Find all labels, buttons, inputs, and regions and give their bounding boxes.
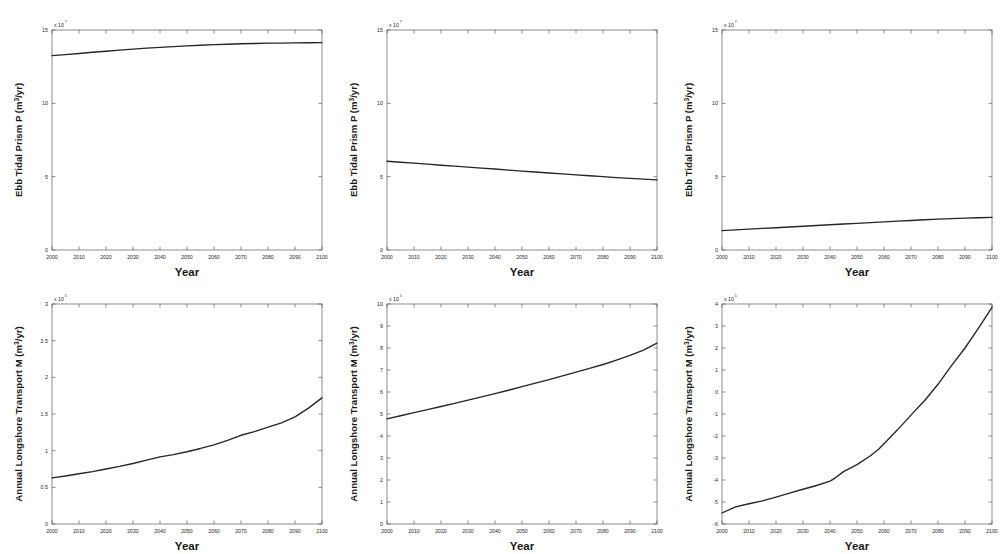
x-tick-label: 2100 [316, 528, 328, 534]
x-tick-label: 2100 [651, 528, 663, 534]
svg-text:x 10: x 10 [724, 296, 734, 302]
y-tick-label: 15 [42, 27, 48, 33]
x-tick-label: 2020 [435, 528, 447, 534]
y-axis-exponent-label: x 105 [724, 294, 737, 301]
x-tick-label: 2080 [262, 254, 274, 260]
data-series-line [52, 43, 322, 56]
x-tick-label: 2010 [743, 528, 755, 534]
subplot-panel: 2000201020202030204020502060207020802090… [670, 0, 1005, 280]
x-tick-label: 2000 [716, 254, 728, 260]
subplot-panel: 2000201020202030204020502060207020802090… [335, 274, 670, 554]
x-tick-label: 2080 [932, 254, 944, 260]
x-tick-label: 2010 [408, 254, 420, 260]
y-tick-label: 10 [712, 100, 718, 106]
plot-panel-top-right: 2000201020202030204020502060207020802090… [670, 0, 1005, 280]
x-tick-label: 2030 [797, 528, 809, 534]
x-tick-label: 2060 [543, 254, 555, 260]
x-tick-label: 2030 [797, 254, 809, 260]
plot-frame [722, 30, 992, 250]
svg-text:5: 5 [400, 294, 402, 298]
x-tick-label: 2060 [208, 528, 220, 534]
x-tick-label: 2000 [46, 254, 58, 260]
y-tick-label: 15 [712, 27, 718, 33]
plot-frame [387, 30, 657, 250]
x-tick-label: 2080 [932, 528, 944, 534]
x-tick-label: 2070 [570, 254, 582, 260]
y-tick-label: 0 [380, 521, 383, 527]
x-tick-label: 2020 [770, 528, 782, 534]
y-tick-label: 4 [715, 301, 718, 307]
x-tick-label: 2090 [959, 254, 971, 260]
y-tick-label: 0 [380, 247, 383, 253]
x-tick-label: 2050 [181, 254, 193, 260]
y-tick-label: -3 [713, 455, 718, 461]
x-tick-label: 2060 [208, 254, 220, 260]
y-axis-title: Annual Longshore Transport M (m3/yr) [348, 326, 359, 501]
x-tick-label: 2000 [716, 528, 728, 534]
y-tick-label: 1 [380, 499, 383, 505]
x-tick-label: 2090 [624, 254, 636, 260]
y-axis-exponent-label: x 105 [389, 294, 402, 301]
y-tick-label: 4 [380, 433, 383, 439]
y-tick-label: 2 [45, 374, 48, 380]
x-tick-label: 2010 [743, 254, 755, 260]
y-tick-label: 0 [715, 247, 718, 253]
x-tick-label: 2010 [73, 254, 85, 260]
x-tick-label: 2030 [127, 528, 139, 534]
x-tick-label: 2000 [381, 254, 393, 260]
svg-text:5: 5 [65, 294, 67, 298]
y-tick-label: 3 [380, 455, 383, 461]
svg-text:x 10: x 10 [389, 22, 399, 28]
y-tick-label: 7 [380, 367, 383, 373]
x-tick-label: 2100 [986, 254, 998, 260]
y-tick-label: -2 [713, 433, 718, 439]
y-axis-title: Annual Longshore Transport M (m3/yr) [683, 326, 694, 501]
y-tick-label: 0 [45, 247, 48, 253]
x-tick-label: 2050 [516, 254, 528, 260]
y-axis-title: Ebb Tidal Prism P (m3/yr) [348, 83, 359, 197]
svg-text:Ebb Tidal Prism P (m3/yr): Ebb Tidal Prism P (m3/yr) [348, 83, 359, 197]
y-axis-title: Ebb Tidal Prism P (m3/yr) [683, 83, 694, 197]
plot-frame [387, 304, 657, 524]
svg-text:x 10: x 10 [724, 22, 734, 28]
x-tick-label: 2060 [878, 528, 890, 534]
x-tick-label: 2040 [824, 254, 836, 260]
svg-text:7: 7 [400, 20, 402, 24]
x-tick-label: 2000 [381, 528, 393, 534]
x-tick-label: 2100 [316, 254, 328, 260]
data-series-line [52, 398, 322, 478]
data-series-line [722, 307, 992, 513]
x-tick-label: 2090 [289, 528, 301, 534]
y-tick-label: -4 [713, 477, 718, 483]
x-tick-label: 2090 [289, 254, 301, 260]
y-tick-label: 5 [45, 174, 48, 180]
x-tick-label: 2040 [154, 528, 166, 534]
x-tick-label: 2040 [489, 254, 501, 260]
y-tick-label: 10 [377, 301, 383, 307]
data-series-line [387, 161, 657, 180]
svg-text:Annual Longshore Transport M (: Annual Longshore Transport M (m3/yr) [13, 326, 24, 501]
y-tick-label: 15 [377, 27, 383, 33]
y-tick-label: 5 [380, 411, 383, 417]
subplot-panel: 2000201020202030204020502060207020802090… [670, 274, 1005, 554]
x-tick-label: 2060 [543, 528, 555, 534]
x-tick-label: 2050 [851, 528, 863, 534]
x-tick-label: 2040 [154, 254, 166, 260]
x-tick-label: 2050 [181, 528, 193, 534]
y-tick-label: -5 [713, 499, 718, 505]
y-tick-label: 0 [715, 389, 718, 395]
x-tick-label: 2010 [73, 528, 85, 534]
x-tick-label: 2020 [100, 528, 112, 534]
y-axis-exponent-label: x 107 [389, 20, 402, 27]
svg-text:7: 7 [735, 20, 737, 24]
x-tick-label: 2000 [46, 528, 58, 534]
plot-panel-bottom-mid: 2000201020202030204020502060207020802090… [335, 274, 670, 554]
y-tick-label: 2 [715, 345, 718, 351]
plot-panel-bottom-right: 2000201020202030204020502060207020802090… [670, 274, 1005, 554]
x-tick-label: 2040 [489, 528, 501, 534]
y-tick-label: 1 [715, 367, 718, 373]
x-axis-title: Year [175, 540, 200, 552]
svg-text:Annual Longshore Transport M (: Annual Longshore Transport M (m3/yr) [683, 326, 694, 501]
y-axis-title: Ebb Tidal Prism P (m3/yr) [13, 83, 24, 197]
x-tick-label: 2020 [770, 254, 782, 260]
